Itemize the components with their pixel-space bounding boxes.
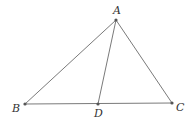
segment-ad bbox=[98, 20, 116, 104]
point-d bbox=[96, 102, 99, 105]
label-a: A bbox=[112, 4, 121, 17]
segment-ac bbox=[116, 20, 172, 103]
triangle-diagram: A B C D bbox=[0, 0, 193, 126]
label-d: D bbox=[93, 107, 103, 120]
label-b: B bbox=[11, 102, 20, 115]
segment-ab bbox=[25, 20, 116, 104]
point-a bbox=[114, 18, 117, 21]
point-b bbox=[23, 102, 26, 105]
label-c: C bbox=[176, 101, 185, 114]
point-c bbox=[170, 101, 173, 104]
